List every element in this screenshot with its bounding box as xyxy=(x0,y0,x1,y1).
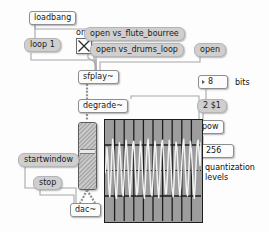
comment-levels: levels xyxy=(205,173,228,183)
vertical-slider[interactable] xyxy=(78,122,97,190)
comment-levels-label: levels xyxy=(205,173,228,182)
message-stop[interactable]: stop xyxy=(33,176,62,190)
message-open-drums[interactable]: open vs_drums_loop xyxy=(90,43,184,57)
comment-quantization: quantization xyxy=(205,163,255,173)
comment-quantization-label: quantization xyxy=(205,163,255,172)
comment-bits-label: bits xyxy=(235,78,250,87)
number-box-bits-value: 8 xyxy=(208,77,213,86)
object-loadbang[interactable]: loadbang xyxy=(29,11,76,25)
number-box-levels-value: 256 xyxy=(206,146,221,155)
message-startwindow-label: startwindow xyxy=(24,155,73,164)
object-pow-label: pow xyxy=(202,122,219,131)
signal-graph[interactable] xyxy=(104,119,203,223)
object-sfplay[interactable]: sfplay~ xyxy=(78,70,119,84)
signal-graph-plot xyxy=(105,120,201,221)
object-dac-label: dac~ xyxy=(75,205,96,214)
number-box-bits[interactable]: 8 xyxy=(198,75,228,89)
object-degrade-label: degrade~ xyxy=(83,101,123,110)
message-stop-label: stop xyxy=(39,178,56,187)
comment-bits: bits xyxy=(235,78,250,88)
object-sfplay-label: sfplay~ xyxy=(83,72,114,81)
message-open-drums-label: open vs_drums_loop xyxy=(96,45,178,54)
slider-knob[interactable] xyxy=(80,149,95,154)
message-open-flute-label: open vs_flute_bourree xyxy=(90,29,179,38)
message-two-dollar-one[interactable]: 2 $1 xyxy=(197,99,227,113)
message-two-dollar-one-label: 2 $1 xyxy=(203,101,221,110)
message-open-label: open xyxy=(200,45,220,54)
x-cross-icon xyxy=(77,39,91,53)
object-loadbang-label: loadbang xyxy=(34,13,71,22)
message-loop-label: loop 1 xyxy=(30,40,55,49)
object-dac[interactable]: dac~ xyxy=(70,203,101,217)
message-open[interactable]: open xyxy=(194,43,226,57)
message-loop[interactable]: loop 1 xyxy=(24,38,61,52)
message-open-flute[interactable]: open vs_flute_bourree xyxy=(84,27,185,41)
message-startwindow[interactable]: startwindow xyxy=(18,153,79,167)
pd-patch-canvas: loadbang loop 1 on off open vs_flute_bou… xyxy=(0,0,269,232)
slider-track xyxy=(79,123,96,189)
object-degrade[interactable]: degrade~ xyxy=(78,99,128,113)
